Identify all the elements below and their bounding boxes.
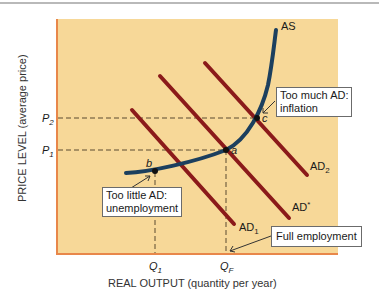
unemployment-callout-line1: Too little AD: bbox=[106, 189, 178, 202]
unemployment-callout-line2: unemployment bbox=[106, 202, 178, 215]
qf-tick-label: QF bbox=[220, 260, 235, 275]
inflation-callout: Too much AD: inflation bbox=[276, 87, 352, 117]
as-label: AS bbox=[281, 20, 296, 32]
point-a-dot bbox=[223, 147, 229, 153]
point-b-label: b bbox=[146, 157, 152, 169]
point-c-dot bbox=[254, 115, 260, 121]
y-axis-label: PRICE LEVEL (average price) bbox=[16, 62, 28, 202]
inflation-callout-line1: Too much AD: bbox=[280, 89, 348, 102]
p1-tick-label: P1 bbox=[42, 144, 54, 159]
full-employment-callout: Full employment bbox=[271, 226, 362, 247]
p2-tick-label: P2 bbox=[42, 112, 54, 127]
q1-tick-label: Q1 bbox=[149, 260, 162, 275]
x-axis-label: REAL OUTPUT (quantity per year) bbox=[108, 277, 277, 289]
unemployment-callout: Too little AD: unemployment bbox=[102, 187, 182, 217]
point-a-label: a bbox=[231, 144, 237, 156]
plot-area bbox=[56, 19, 338, 254]
ad-as-diagram: b a c AS AD1 AD* AD2 P2 P1 Q1 QF bbox=[0, 0, 379, 295]
inflation-callout-line2: inflation bbox=[280, 102, 348, 115]
point-b-dot bbox=[152, 168, 158, 174]
point-c-label: c bbox=[262, 112, 268, 124]
